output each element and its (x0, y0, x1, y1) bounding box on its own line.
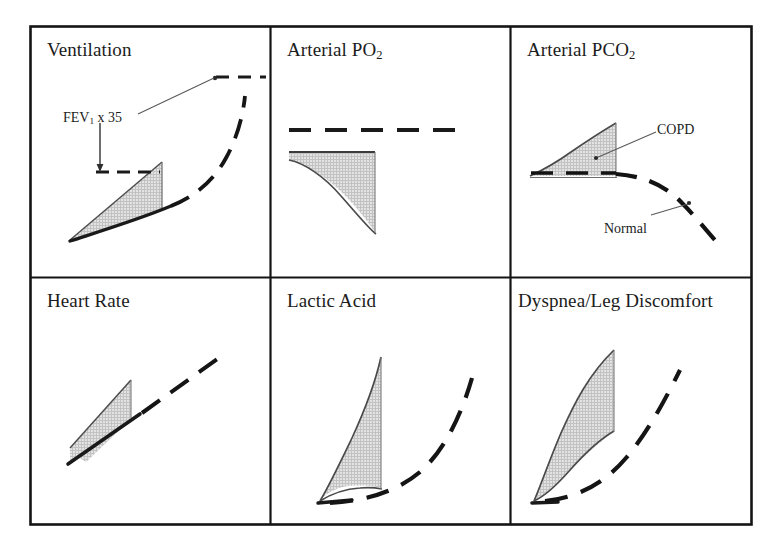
panel-heart-rate-graphics (68, 355, 223, 464)
annotation-normal: Normal (604, 222, 647, 236)
panel-title-arterial-po2: Arterial PO2 (287, 40, 383, 61)
annotation-normal-text: Normal (604, 221, 647, 236)
panel-title-lactic-acid-text: Lactic Acid (287, 290, 376, 311)
panel-title-dyspnea-leg-discomfort: Dyspnea/Leg Discomfort (518, 291, 713, 312)
panel-title-arterial-po2-sub: 2 (376, 48, 382, 62)
panel-title-arterial-pco2: Arterial PCO2 (527, 40, 635, 61)
panel-title-heart-rate-text: Heart Rate (47, 290, 130, 311)
panel-title-dyspnea-leg-discomfort-text: Dyspnea/Leg Discomfort (518, 290, 713, 311)
panel-title-heart-rate: Heart Rate (47, 291, 130, 312)
panel-title-ventilation: Ventilation (47, 40, 131, 61)
annotation-copd: COPD (657, 123, 694, 137)
panel-title-ventilation-text: Ventilation (47, 39, 131, 60)
panel-dyspnea-graphics (532, 350, 680, 503)
figure-root: Ventilation Arterial PO2 Arterial PCO2 H… (0, 0, 781, 553)
panel-title-arterial-po2-text: Arterial PO (287, 39, 376, 60)
pco2-normal-leader-dot (687, 201, 691, 205)
figure-canvas (0, 0, 781, 553)
panel-title-lactic-acid: Lactic Acid (287, 291, 376, 312)
annotation-copd-text: COPD (657, 122, 694, 137)
panel-title-arterial-pco2-text: Arterial PCO (527, 39, 629, 60)
heart-rate-normal-dash (142, 355, 223, 413)
annotation-fev1-x35: FEV1 x 35 (63, 111, 122, 126)
annotation-fev1-prefix: FEV (63, 110, 89, 125)
dyspnea-baseline-stub (532, 502, 558, 503)
panel-ventilation-graphics (70, 76, 266, 241)
pco2-normal-leader-line (651, 204, 688, 215)
pco2-copd-leader-dot (594, 156, 598, 160)
panel-title-arterial-pco2-sub: 2 (629, 48, 635, 62)
dyspnea-copd-band (534, 350, 614, 500)
ventilation-normal-curve (171, 96, 245, 206)
pco2-normal-falling-dash (616, 174, 722, 248)
panel-arterial-po2-graphics (289, 130, 464, 234)
panel-lactic-acid-graphics (318, 357, 472, 503)
panel-grid-frame (31, 27, 752, 525)
ventilation-fev1-leader-line (138, 78, 214, 114)
lactic-copd-band (320, 358, 381, 500)
heart-rate-copd-band-alt (70, 380, 131, 463)
annotation-fev1-suffix: x 35 (94, 110, 122, 125)
